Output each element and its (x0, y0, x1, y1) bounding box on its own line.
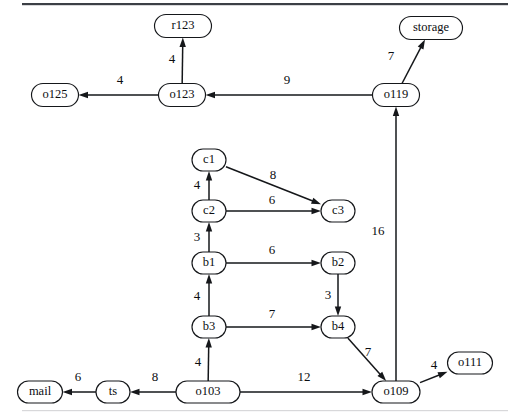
edge-weight-label: 4 (117, 72, 124, 87)
node-label: mail (29, 384, 52, 398)
edge-weight-label: 4 (169, 51, 176, 66)
node-label: b1 (203, 255, 216, 269)
edge-weight-label: 4 (431, 357, 438, 372)
node-label: o103 (196, 384, 221, 398)
arrowhead-icon (418, 40, 425, 50)
node-label: c3 (332, 203, 344, 217)
edge-weight-label: 9 (284, 72, 291, 87)
graph-edge-o103-to-b3 (208, 345, 209, 381)
arrowhead-icon (363, 389, 373, 395)
arrowhead-icon (63, 389, 73, 395)
graph-node-ts[interactable]: ts (96, 381, 130, 403)
graph-node-storage[interactable]: storage (400, 17, 463, 40)
edge-weight-label: 7 (388, 48, 395, 63)
graph-canvas: r123storageo125o123o119c1c2c3b1b2b3b4o11… (0, 0, 508, 419)
edge-weight-label: 8 (152, 369, 159, 384)
graph-node-o109[interactable]: o109 (372, 381, 420, 403)
node-label: r123 (172, 18, 195, 32)
node-label: c1 (203, 152, 215, 166)
graph-node-b1[interactable]: b1 (192, 252, 226, 274)
graph-node-b3[interactable]: b3 (192, 316, 226, 338)
graph-node-o125[interactable]: o125 (32, 84, 79, 107)
arrowhead-icon (205, 338, 211, 348)
arrowhead-icon (206, 92, 216, 98)
edge-weight-label: 4 (194, 288, 201, 303)
arrowhead-icon (79, 92, 89, 98)
node-label: ts (109, 384, 117, 398)
node-label: b3 (203, 319, 216, 333)
edge-weight-label: 8 (270, 167, 277, 182)
graph-edge-o119-to-storage (402, 46, 422, 83)
arrowhead-icon (312, 208, 322, 214)
diagram-page: r123storageo125o123o119c1c2c3b1b2b3b4o11… (0, 0, 508, 419)
graph-node-b4[interactable]: b4 (321, 316, 355, 338)
arrowhead-icon (312, 324, 322, 330)
graph-node-r123[interactable]: r123 (155, 15, 212, 38)
edge-weight-label: 16 (372, 223, 386, 238)
graph-node-c1[interactable]: c1 (192, 149, 226, 171)
edge-weight-label: 7 (365, 344, 372, 359)
graph-edge-o123-to-r123 (182, 45, 183, 84)
arrowhead-icon (130, 389, 140, 395)
node-label: o109 (384, 384, 409, 398)
graph-node-o123[interactable]: o123 (159, 84, 206, 107)
edge-weight-label: 6 (75, 369, 82, 384)
arrowhead-icon (311, 198, 321, 204)
node-label: o119 (384, 87, 409, 101)
arrowhead-icon (206, 171, 212, 181)
node-layer: r123storageo125o123o119c1c2c3b1b2b3b4o11… (18, 15, 493, 404)
edge-weight-label: 4 (194, 177, 201, 192)
graph-node-c3[interactable]: c3 (321, 200, 355, 222)
node-label: b2 (332, 255, 345, 269)
arrowhead-icon (335, 307, 341, 317)
arrowhead-icon (206, 222, 212, 232)
arrowhead-icon (179, 38, 185, 48)
edge-weight-label: 3 (325, 287, 332, 302)
node-label: o125 (43, 87, 68, 101)
arrowhead-icon (393, 107, 399, 117)
edge-weight-label: 6 (269, 192, 276, 207)
node-label: o123 (170, 87, 195, 101)
graph-node-o103[interactable]: o103 (176, 381, 240, 403)
graph-node-b2[interactable]: b2 (321, 252, 355, 274)
graph-node-o119[interactable]: o119 (373, 84, 420, 107)
node-label: o111 (458, 355, 482, 369)
node-label: b4 (332, 319, 345, 333)
arrowhead-icon (206, 274, 212, 284)
edge-weight-label: 3 (194, 229, 201, 244)
top-rule (22, 3, 508, 5)
edge-weight-label: 4 (195, 354, 202, 369)
node-label: storage (413, 20, 450, 34)
arrowhead-icon (312, 260, 322, 266)
edge-weight-label: 12 (298, 369, 311, 384)
arrowhead-icon (437, 372, 447, 378)
node-label: c2 (203, 203, 215, 217)
bottom-rule (22, 410, 508, 411)
graph-edge-o109-to-o111 (420, 375, 441, 383)
edge-weight-label: 7 (269, 306, 276, 321)
edge-weight-label: 6 (269, 242, 276, 257)
graph-node-c2[interactable]: c2 (192, 200, 226, 222)
graph-node-mail[interactable]: mail (18, 381, 63, 403)
graph-node-o111[interactable]: o111 (448, 352, 493, 374)
